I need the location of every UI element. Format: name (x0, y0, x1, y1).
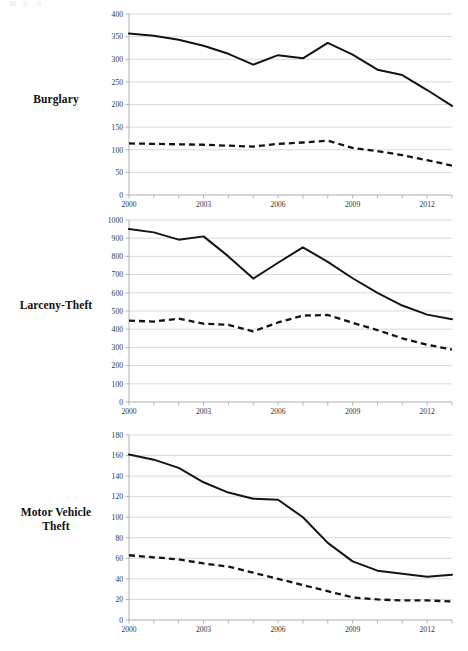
y-tick-label: 140 (112, 472, 124, 481)
x-tick-label: 2012 (420, 625, 435, 634)
y-tick-label: 60 (115, 554, 123, 563)
x-tick-label: 2006 (270, 625, 285, 634)
x-tick-label: 2003 (196, 625, 211, 634)
y-tick-label: 80 (115, 534, 123, 543)
figure-canvas: Burglary 0501001502002503003504002000200… (0, 0, 468, 651)
y-tick-label: 40 (115, 575, 123, 584)
y-tick-label: 120 (112, 492, 124, 501)
y-tick-label: 0 (119, 616, 123, 625)
y-tick-label: 180 (112, 431, 124, 440)
x-tick-label: 2009 (345, 625, 360, 634)
y-tick-label: 100 (112, 513, 124, 522)
x-tick-label: 2000 (121, 625, 136, 634)
chart-motor-vehicle-theft: 0204060801001201401601802000200320062009… (0, 0, 468, 651)
plot-area-2: 0204060801001201401601802000200320062009… (112, 431, 452, 634)
y-tick-label: 20 (115, 595, 123, 604)
series-dashed (129, 555, 452, 601)
y-tick-label: 160 (112, 451, 124, 460)
